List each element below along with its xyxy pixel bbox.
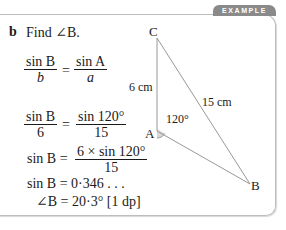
angle-A-value: 120°: [166, 112, 189, 127]
vertex-C-label: C: [149, 24, 158, 40]
side-AC-length: 6 cm: [129, 80, 153, 95]
vertex-A-label: A: [145, 126, 154, 142]
side-CB-length: 15 cm: [202, 95, 232, 110]
triangle-diagram: [0, 0, 286, 230]
vertex-B-label: B: [251, 178, 260, 194]
